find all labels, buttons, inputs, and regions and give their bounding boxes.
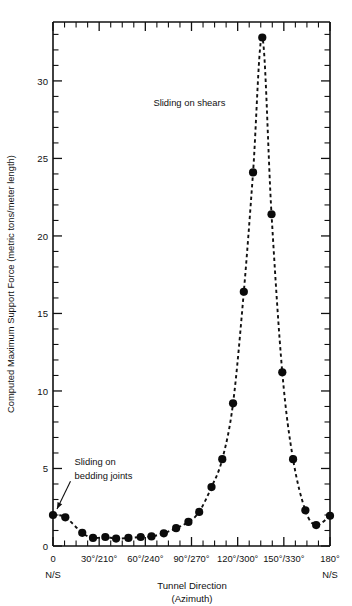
data-point: [229, 399, 237, 407]
x-axis-title: Tunnel Direction: [157, 580, 227, 591]
y-tick-label: 0: [43, 541, 48, 552]
x-tick-label: 60°/240°: [127, 553, 163, 564]
y-tick-label: 15: [37, 308, 48, 319]
data-point: [112, 534, 120, 542]
data-point: [49, 511, 57, 519]
annotation-sliding-on-bedding-joints: Sliding on bedding joints: [57, 456, 133, 509]
data-point: [289, 455, 297, 463]
annotation-sliding-on-shears: Sliding on shears: [153, 97, 225, 108]
y-tick-label: 25: [37, 153, 48, 164]
data-point: [207, 483, 215, 491]
data-point: [160, 529, 168, 537]
data-point: [124, 534, 132, 542]
y-axis-ticks: [53, 34, 62, 546]
annotation-bedding-joints-line2: bedding joints: [75, 470, 133, 481]
x-tick-sublabel: N/S: [322, 569, 338, 580]
x-axis-tick-labels: 0N/S30°/210°60°/240°90°/270°120°/300°150…: [45, 553, 340, 580]
data-point: [184, 518, 192, 526]
data-point: [301, 506, 309, 514]
data-point: [78, 529, 86, 537]
y-tick-label: 10: [37, 386, 48, 397]
data-point: [312, 521, 320, 529]
y-axis-tick-labels: 051015202530: [37, 76, 48, 552]
annotation-arrowhead-icon: [57, 502, 62, 509]
chart-figure: Computed Maximum Support Force (metric t…: [0, 0, 352, 606]
data-point: [278, 368, 286, 376]
data-point: [258, 33, 266, 41]
data-point: [61, 513, 69, 521]
x-tick-sublabel: N/S: [45, 569, 61, 580]
x-tick-label: 120°/300°: [217, 553, 259, 564]
data-point: [89, 534, 97, 542]
data-point: [172, 524, 180, 532]
top-axis-ticks: [53, 22, 330, 31]
data-point: [147, 532, 155, 540]
y-tick-label: 5: [43, 463, 48, 474]
data-point: [137, 533, 145, 541]
y-tick-label: 20: [37, 231, 48, 242]
y-tick-label: 30: [37, 76, 48, 87]
right-axis-ticks: [321, 34, 330, 546]
data-point: [218, 455, 226, 463]
y-axis-title: Computed Maximum Support Force (metric t…: [5, 155, 16, 413]
x-tick-label: 30°/210°: [81, 553, 117, 564]
annotation-sliding-on-shears-label: Sliding on shears: [153, 97, 225, 108]
x-tick-label: 0: [50, 553, 55, 564]
data-point: [326, 512, 334, 520]
data-point: [267, 210, 275, 218]
annotation-bedding-joints-line1: Sliding on: [75, 456, 116, 467]
x-tick-label: 180°: [320, 553, 340, 564]
x-axis-subtitle: (Azimuth): [171, 593, 212, 604]
support-force-vs-azimuth-chart: Computed Maximum Support Force (metric t…: [0, 0, 352, 606]
x-tick-label: 90°/270°: [173, 553, 209, 564]
x-tick-label: 150°/330°: [263, 553, 305, 564]
data-point: [195, 508, 203, 516]
data-point: [240, 288, 248, 296]
data-point: [101, 533, 109, 541]
data-point: [249, 168, 257, 176]
